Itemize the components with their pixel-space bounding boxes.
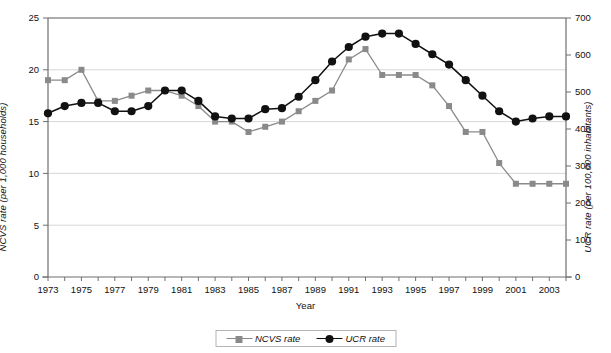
data-point-marker [296, 108, 302, 114]
data-point-marker [563, 181, 569, 187]
data-point-marker [129, 93, 135, 99]
x-tick-label: 1985 [238, 284, 259, 295]
data-point-marker [261, 105, 269, 113]
y-tick-label-right: 400 [575, 123, 591, 134]
y-tick-label-right: 100 [575, 234, 591, 245]
data-point-marker [345, 43, 353, 51]
data-point-marker [145, 88, 151, 94]
data-point-marker [495, 107, 503, 115]
x-tick-label: 1993 [372, 284, 393, 295]
data-point-marker [395, 29, 403, 37]
y-tick-label-right: 500 [575, 86, 591, 97]
legend-label-ucr: UCR rate [345, 333, 385, 344]
data-point-marker [111, 107, 119, 115]
data-point-marker [513, 181, 519, 187]
data-point-marker [45, 77, 51, 83]
data-point-marker [279, 119, 285, 125]
data-point-marker [311, 76, 319, 84]
series-line [48, 49, 566, 184]
data-point-marker [462, 76, 470, 84]
data-point-marker [512, 118, 520, 126]
data-point-marker [94, 99, 102, 107]
x-tick-label: 1989 [305, 284, 326, 295]
data-point-marker [144, 102, 152, 110]
data-point-marker [446, 103, 452, 109]
data-point-marker [244, 114, 252, 122]
x-tick-label: 1977 [104, 284, 125, 295]
data-point-marker [463, 129, 469, 135]
x-tick-label: 1973 [37, 284, 58, 295]
data-point-marker [178, 86, 186, 94]
data-point-marker [262, 124, 268, 130]
x-tick-label: 2001 [505, 284, 526, 295]
data-point-marker [61, 102, 69, 110]
data-point-marker [346, 56, 352, 62]
series-ncvs-rate [45, 46, 569, 187]
data-point-marker [112, 98, 118, 104]
data-point-marker [546, 181, 552, 187]
data-point-marker [445, 61, 453, 69]
x-tick-label: 1987 [271, 284, 292, 295]
data-point-marker [211, 112, 219, 120]
data-point-marker [295, 93, 303, 101]
x-tick-label: 1997 [438, 284, 459, 295]
data-point-marker [428, 50, 436, 58]
data-point-marker [62, 77, 68, 83]
data-point-marker [530, 181, 536, 187]
series-ucr-rate [44, 29, 570, 125]
y-tick-label-left: 10 [28, 168, 39, 179]
data-point-marker [496, 160, 502, 166]
data-point-marker [246, 129, 252, 135]
data-point-marker [127, 107, 135, 115]
plot-area: 0510152025010020030040050060070019731975… [0, 0, 611, 353]
data-point-marker [479, 129, 485, 135]
data-point-marker [362, 46, 368, 52]
data-point-marker [161, 86, 169, 94]
data-point-marker [44, 109, 52, 117]
data-point-marker [528, 114, 536, 122]
x-tick-label: 1999 [472, 284, 493, 295]
data-point-marker [361, 33, 369, 41]
data-point-marker [413, 72, 419, 78]
square-marker-icon [226, 334, 252, 344]
x-tick-label: 1995 [405, 284, 426, 295]
x-tick-label: 2003 [539, 284, 560, 295]
chart-legend: NCVS rate UCR rate [215, 330, 396, 347]
data-point-marker [478, 92, 486, 100]
data-point-marker [562, 112, 570, 120]
series-line [48, 34, 566, 122]
circle-marker-icon [316, 334, 342, 344]
data-point-marker [194, 97, 202, 105]
data-point-marker [312, 98, 318, 104]
data-point-marker [429, 82, 435, 88]
y-tick-label-left: 25 [28, 12, 39, 23]
x-tick-label: 1983 [205, 284, 226, 295]
data-point-marker [396, 72, 402, 78]
data-point-marker [328, 57, 336, 65]
data-point-marker [379, 72, 385, 78]
legend-label-ncvs: NCVS rate [255, 333, 300, 344]
data-point-marker [378, 29, 386, 37]
y-tick-label-right: 200 [575, 197, 591, 208]
y-tick-label-right: 0 [575, 271, 580, 282]
y-tick-label-right: 700 [575, 12, 591, 23]
y-tick-label-right: 300 [575, 160, 591, 171]
x-tick-label: 1991 [338, 284, 359, 295]
x-tick-label: 1979 [138, 284, 159, 295]
chart-figure: NCVS rate (per 1,000 households) UCR rat… [0, 0, 611, 353]
x-tick-label: 1981 [171, 284, 192, 295]
data-point-marker [228, 114, 236, 122]
y-tick-label-left: 0 [34, 271, 39, 282]
data-point-marker [545, 112, 553, 120]
data-point-marker [329, 88, 335, 94]
x-tick-label: 1975 [71, 284, 92, 295]
data-point-marker [77, 99, 85, 107]
legend-item-ncvs: NCVS rate [226, 333, 300, 344]
data-point-marker [412, 40, 420, 48]
y-tick-label-right: 600 [575, 49, 591, 60]
y-tick-label-left: 15 [28, 116, 39, 127]
data-point-marker [78, 67, 84, 73]
y-tick-label-left: 5 [34, 220, 39, 231]
y-tick-label-left: 20 [28, 64, 39, 75]
legend-item-ucr: UCR rate [316, 333, 385, 344]
